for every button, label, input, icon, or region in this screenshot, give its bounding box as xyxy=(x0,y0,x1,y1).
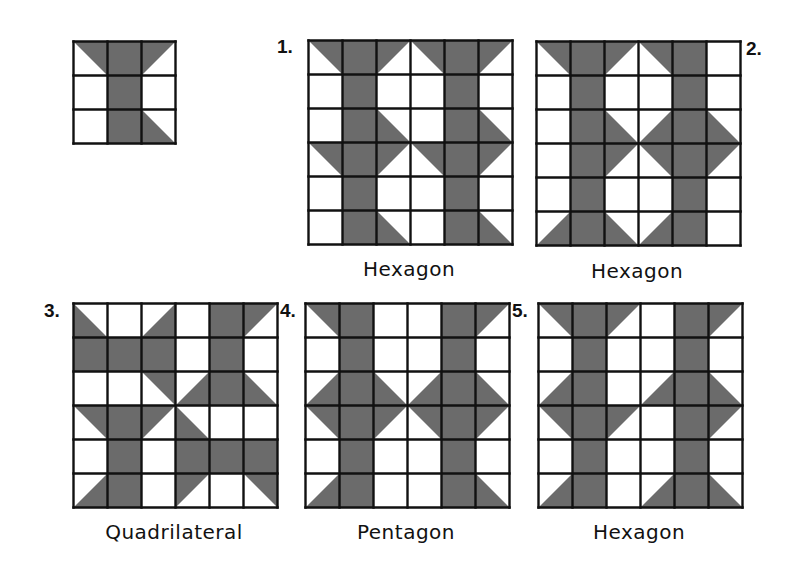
cell-br xyxy=(306,372,340,406)
cell-br xyxy=(176,372,210,406)
cell-f xyxy=(343,41,377,75)
cell-bl xyxy=(142,110,176,144)
figure-4-grid xyxy=(304,302,511,509)
figure-5-grid xyxy=(537,302,744,509)
cell-f xyxy=(445,143,479,177)
figure-4-number: 4. xyxy=(280,300,296,322)
cell-tr xyxy=(639,42,673,76)
cell-tr xyxy=(539,406,573,440)
cell-f xyxy=(673,178,707,212)
cell-f xyxy=(442,474,476,508)
cell-f xyxy=(445,109,479,143)
cell-bl xyxy=(377,211,411,245)
figure-3-grid xyxy=(72,302,279,509)
cell-tr xyxy=(539,304,573,338)
cell-f xyxy=(573,372,607,406)
cell-f xyxy=(340,474,374,508)
cell-f xyxy=(343,143,377,177)
cell-f xyxy=(340,406,374,440)
cell-f xyxy=(442,440,476,474)
cell-f xyxy=(340,338,374,372)
cell-f xyxy=(573,338,607,372)
cell-f xyxy=(445,41,479,75)
cell-f xyxy=(210,440,244,474)
cell-br xyxy=(537,212,571,246)
cell-tl xyxy=(605,42,639,76)
cell-f xyxy=(108,76,142,110)
cell-tr xyxy=(537,42,571,76)
cell-tr xyxy=(74,42,108,76)
cell-f xyxy=(571,178,605,212)
cell-tr xyxy=(244,474,278,508)
source-tile xyxy=(72,40,177,145)
cell-f xyxy=(340,440,374,474)
cell-bl xyxy=(476,372,510,406)
cell-tr xyxy=(309,41,343,75)
cell-tl xyxy=(707,144,741,178)
cell-f xyxy=(210,304,244,338)
cell-f xyxy=(573,406,607,440)
cell-tr xyxy=(411,143,445,177)
cell-tl xyxy=(142,406,176,440)
cell-f xyxy=(108,440,142,474)
cell-f xyxy=(340,372,374,406)
cell-f xyxy=(675,406,709,440)
cell-f xyxy=(573,474,607,508)
cell-br xyxy=(639,212,673,246)
cell-f xyxy=(673,76,707,110)
cell-tl xyxy=(607,406,641,440)
cell-f xyxy=(445,177,479,211)
cell-bl xyxy=(244,372,278,406)
cell-bl xyxy=(476,474,510,508)
cell-tr xyxy=(306,304,340,338)
cell-f xyxy=(571,144,605,178)
cell-tr xyxy=(306,406,340,440)
grid-svg xyxy=(304,302,511,509)
figure-1-number: 1. xyxy=(277,36,293,58)
cell-bl xyxy=(707,110,741,144)
cell-br xyxy=(408,372,442,406)
cell-f xyxy=(108,42,142,76)
figure-2-number: 2. xyxy=(746,38,762,60)
cell-tl xyxy=(244,304,278,338)
cell-tl xyxy=(709,304,743,338)
cell-tr xyxy=(309,143,343,177)
figure-3-label: Quadrilateral xyxy=(62,520,286,544)
grid-svg xyxy=(72,302,279,509)
cell-f xyxy=(343,211,377,245)
cell-tr xyxy=(639,144,673,178)
cell-f xyxy=(673,144,707,178)
cell-tl xyxy=(479,41,513,75)
cell-tr xyxy=(411,41,445,75)
cell-f xyxy=(340,304,374,338)
cell-tl xyxy=(476,406,510,440)
cell-bl xyxy=(709,372,743,406)
cell-f xyxy=(142,338,176,372)
cell-f xyxy=(108,406,142,440)
figure-3-number: 3. xyxy=(44,300,60,322)
grid-svg xyxy=(537,302,744,509)
cell-f xyxy=(210,372,244,406)
cell-f xyxy=(673,42,707,76)
cell-bl xyxy=(377,109,411,143)
cell-tl xyxy=(377,143,411,177)
grid-svg xyxy=(535,40,742,247)
cell-f xyxy=(442,372,476,406)
figure-5-label: Hexagon xyxy=(537,520,741,544)
cell-f xyxy=(571,212,605,246)
figure-1-grid xyxy=(307,39,514,246)
cell-tl xyxy=(476,304,510,338)
cell-br xyxy=(639,110,673,144)
cell-f xyxy=(675,372,709,406)
cell-bl xyxy=(74,304,108,338)
cell-f xyxy=(343,109,377,143)
cell-bl xyxy=(479,109,513,143)
cell-f xyxy=(210,338,244,372)
cell-f xyxy=(442,338,476,372)
cell-f xyxy=(571,42,605,76)
cell-f xyxy=(108,474,142,508)
cell-f xyxy=(573,440,607,474)
cell-f xyxy=(343,177,377,211)
cell-f xyxy=(675,440,709,474)
cell-f xyxy=(675,304,709,338)
